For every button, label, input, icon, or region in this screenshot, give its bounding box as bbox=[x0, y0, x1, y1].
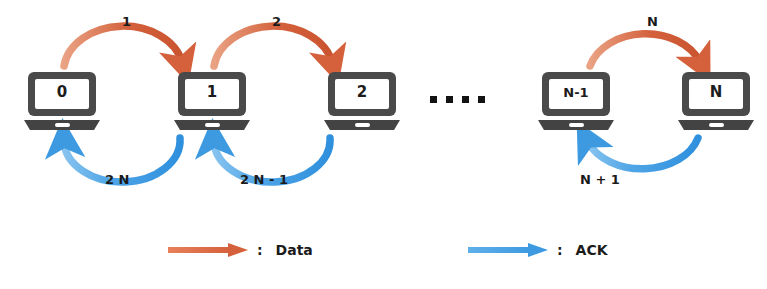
laptop-icon bbox=[676, 70, 756, 132]
ellipsis-dots bbox=[430, 96, 485, 103]
laptop-icon bbox=[322, 70, 402, 132]
ack-edge-label-2n: 2 N bbox=[105, 172, 129, 187]
legend-item-data: : Data bbox=[168, 242, 313, 258]
laptop-icon bbox=[536, 70, 616, 132]
ellipsis-dot bbox=[478, 96, 485, 103]
laptop-icon bbox=[172, 70, 252, 132]
data-edge-label-n: N bbox=[647, 14, 658, 29]
data-arc-Nminus1-to-N bbox=[590, 34, 700, 66]
node-laptop-0[interactable]: 0 bbox=[22, 70, 102, 132]
legend-label-ack: ACK bbox=[576, 242, 608, 258]
laptop-icon bbox=[22, 70, 102, 132]
legend-label-data: Data bbox=[276, 242, 313, 258]
ellipsis-dot bbox=[446, 96, 453, 103]
data-edge-label-1: 1 bbox=[122, 14, 131, 29]
data-arc-1-to-2 bbox=[214, 26, 332, 66]
node-laptop-1[interactable]: 1 bbox=[172, 70, 252, 132]
arrow-right-icon bbox=[468, 242, 550, 258]
ack-arc-N-to-Nminus1 bbox=[588, 138, 698, 169]
legend-separator: : bbox=[557, 242, 563, 258]
legend-separator: : bbox=[257, 242, 263, 258]
ack-edge-label-2n-minus-1: 2 N - 1 bbox=[240, 172, 288, 187]
data-edge-label-2: 2 bbox=[272, 14, 281, 29]
ack-edge-label-n-plus-1: N + 1 bbox=[580, 172, 620, 187]
network-sequence-diagram: 0 1 2 N-1 bbox=[0, 0, 767, 289]
ellipsis-dot bbox=[430, 96, 437, 103]
arrow-arc-layer bbox=[0, 0, 767, 289]
data-arc-0-to-1 bbox=[64, 26, 182, 66]
node-laptop-n-minus-1[interactable]: N-1 bbox=[536, 70, 616, 132]
legend-item-ack: : ACK bbox=[468, 242, 608, 258]
ellipsis-dot bbox=[462, 96, 469, 103]
node-laptop-n[interactable]: N bbox=[676, 70, 756, 132]
arrow-right-icon bbox=[168, 242, 250, 258]
node-laptop-2[interactable]: 2 bbox=[322, 70, 402, 132]
